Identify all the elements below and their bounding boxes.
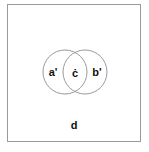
label-right-only: b' xyxy=(92,67,101,78)
label-universe: d xyxy=(71,120,78,131)
label-intersection: ċ xyxy=(72,68,78,79)
label-left-only: a' xyxy=(49,67,58,78)
